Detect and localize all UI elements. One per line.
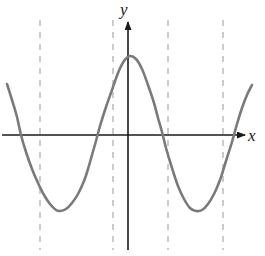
plot-canvas [0, 0, 265, 256]
x-axis-label: x [248, 127, 256, 144]
function-curve [7, 56, 252, 211]
y-axis-label: y [120, 1, 128, 18]
graph-figure: y x [0, 0, 265, 256]
